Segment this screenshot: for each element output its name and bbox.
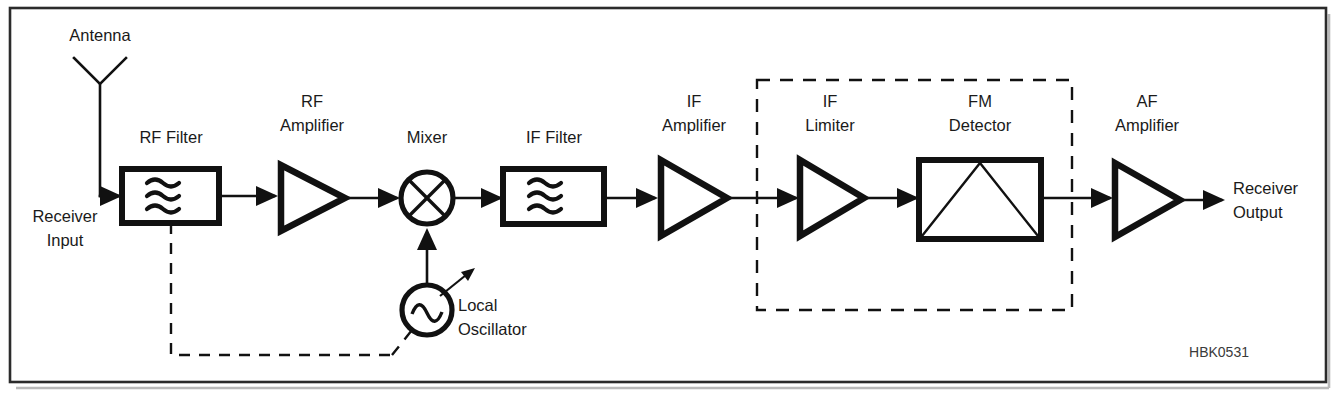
if-filter-block[interactable] — [503, 169, 604, 224]
dashed-path-diagonal — [392, 330, 412, 355]
rf-filter-box — [122, 169, 219, 223]
wire-if-limiter-to-fm-detector — [864, 188, 919, 208]
af-amplifier-triangle — [1115, 163, 1180, 237]
arrowhead-icon — [1091, 188, 1113, 208]
fm-receiver-block-diagram: Antenna Receiver Input RF Filter RF — [0, 0, 1335, 399]
wire-fm-detector-to-af-amplifier — [1041, 188, 1113, 208]
wire-if-filter-to-if-amplifier — [604, 188, 658, 208]
wire-rf-amplifier-to-mixer — [345, 188, 400, 208]
arrowhead-icon — [256, 186, 278, 206]
wire-antenna-to-rf-filter — [100, 186, 122, 206]
receiver-input-label-line1: Receiver — [32, 207, 98, 225]
arrowhead-icon — [897, 188, 919, 208]
rf-filter-block[interactable] — [122, 169, 219, 223]
arrowhead-icon — [1203, 190, 1225, 210]
if-limiter-label-line1: IF — [823, 92, 838, 110]
if-limiter-block[interactable] — [800, 160, 864, 236]
mixer-label: Mixer — [407, 128, 448, 146]
figure-code-label: HBK0531 — [1189, 344, 1249, 360]
rf-amplifier-block[interactable] — [281, 165, 345, 231]
receiver-input-label-line2: Input — [47, 231, 84, 249]
if-amplifier-label-line1: IF — [687, 92, 702, 110]
wire-af-amplifier-to-receiver-output — [1180, 190, 1225, 210]
arrowhead-icon — [636, 188, 658, 208]
local-oscillator-label-line2: Oscillator — [458, 320, 527, 338]
ganged-tuning-dashed-link — [171, 223, 412, 355]
wire-local-oscillator-to-mixer — [417, 228, 437, 285]
rf-amplifier-label-line2: Amplifier — [280, 116, 345, 134]
if-limiter-triangle — [800, 160, 864, 236]
local-oscillator-label-line1: Local — [458, 296, 497, 314]
af-amplifier-label-line1: AF — [1136, 92, 1157, 110]
fm-detector-box — [919, 160, 1041, 239]
af-amplifier-block[interactable] — [1115, 163, 1180, 237]
arrowhead-icon — [777, 188, 799, 208]
arrowhead-icon — [417, 228, 437, 250]
wire-mixer-to-if-filter — [453, 188, 503, 208]
antenna-dipole-v — [74, 58, 126, 84]
dashed-path-rf-filter-to-lo — [171, 223, 395, 355]
tuning-arrow-head — [461, 268, 475, 281]
if-amplifier-label-line2: Amplifier — [662, 116, 727, 134]
tuning-arrow-icon — [440, 268, 475, 296]
receiver-output-label-line2: Output — [1233, 203, 1283, 221]
fm-detector-label-line1: FM — [968, 92, 992, 110]
arrowhead-icon — [100, 186, 122, 206]
af-amplifier-label-line2: Amplifier — [1115, 116, 1180, 134]
rf-amplifier-triangle — [281, 165, 345, 231]
rf-filter-label: RF Filter — [139, 128, 203, 146]
if-amplifier-block[interactable] — [661, 160, 727, 236]
rf-amplifier-label-line1: RF — [301, 92, 323, 110]
arrowhead-icon — [481, 188, 503, 208]
mixer-block[interactable] — [401, 172, 453, 224]
figure-canvas: Antenna Receiver Input RF Filter RF — [0, 0, 1335, 399]
if-filter-label: IF Filter — [526, 128, 582, 146]
antenna-downlead — [100, 84, 110, 196]
fm-detector-label-line2: Detector — [949, 116, 1012, 134]
if-filter-box — [503, 169, 604, 224]
wire-if-amplifier-to-if-limiter — [727, 188, 799, 208]
antenna-symbol — [74, 58, 126, 196]
antenna-label: Antenna — [69, 26, 131, 44]
if-limiter-label-line2: Limiter — [805, 116, 855, 134]
if-amplifier-triangle — [661, 160, 727, 236]
wire-rf-filter-to-rf-amplifier — [219, 186, 278, 206]
receiver-output-label-line1: Receiver — [1233, 179, 1299, 197]
fm-detector-block[interactable] — [919, 160, 1041, 239]
arrowhead-icon — [378, 188, 400, 208]
